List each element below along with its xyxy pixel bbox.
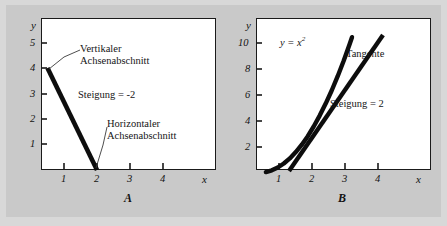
panel-a-annotation-horizontal-intercept-line1: Horizontaler	[107, 118, 176, 130]
panel-b-annotation-tangente: Tangente	[346, 48, 384, 60]
panel-a-annotation-vertical-intercept-line1: Vertikaler	[80, 43, 149, 55]
panel-a-leader-horizontal-intercept	[96, 127, 107, 168]
panel-b: y 10 8 6 4 2 1 2 3 4 x	[218, 5, 441, 217]
panel-b-annotation-function-base: y = x	[280, 37, 302, 48]
figure-plate: y 5 4 3 2 1 1 2 3 4 x	[6, 5, 441, 217]
panel-a-line-segment	[48, 68, 98, 170]
panel-a-annotation-vertical-intercept-line2: Achsenabschnitt	[80, 55, 149, 67]
panel-a-graphics	[6, 5, 229, 217]
panel-a-annotation-vertical-intercept: Vertikaler Achsenabschnitt	[80, 43, 149, 68]
panel-a: y 5 4 3 2 1 1 2 3 4 x	[6, 5, 229, 217]
figure-container: y 5 4 3 2 1 1 2 3 4 x	[0, 0, 447, 226]
panel-a-leader-vertical-intercept	[49, 50, 80, 69]
panel-b-graphics	[218, 5, 441, 217]
panel-a-annotation-slope: Steigung = -2	[78, 89, 135, 101]
panel-a-annotation-horizontal-intercept: Horizontaler Achsenabschnitt	[107, 118, 176, 143]
panel-a-label: A	[124, 191, 132, 206]
panel-b-label: B	[338, 191, 346, 206]
panel-b-annotation-slope: Steigung = 2	[330, 98, 384, 110]
panel-b-annotation-function: y = x2	[280, 35, 305, 49]
panel-b-annotation-function-exponent: 2	[302, 35, 306, 43]
panel-a-annotation-horizontal-intercept-line2: Achsenabschnitt	[107, 130, 176, 142]
